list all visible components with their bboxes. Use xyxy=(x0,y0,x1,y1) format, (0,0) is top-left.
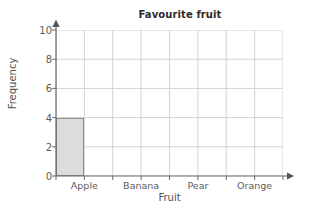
bar-chart: Favourite fruit 0246810 AppleBananaPearO… xyxy=(0,0,322,215)
bars-layer xyxy=(56,30,283,176)
y-tick-label: 2 xyxy=(32,141,52,152)
bar-apple xyxy=(56,118,84,176)
y-axis-title: Frequency xyxy=(7,44,18,124)
chart-title: Favourite fruit xyxy=(100,9,260,20)
y-tick-label: 6 xyxy=(32,83,52,94)
x-tick-label-pear: Pear xyxy=(166,180,230,191)
y-tick-label: 4 xyxy=(32,112,52,123)
x-tick-label-banana: Banana xyxy=(109,180,173,191)
x-axis-title: Fruit xyxy=(56,192,283,203)
x-tick-label-apple: Apple xyxy=(52,180,116,191)
x-tick-label-orange: Orange xyxy=(223,180,287,191)
y-axis-tick-labels: 0246810 xyxy=(28,30,52,176)
y-tick-label: 8 xyxy=(32,54,52,65)
y-tick-label: 0 xyxy=(32,171,52,182)
y-tick-label: 10 xyxy=(32,25,52,36)
plot-area xyxy=(56,30,283,176)
